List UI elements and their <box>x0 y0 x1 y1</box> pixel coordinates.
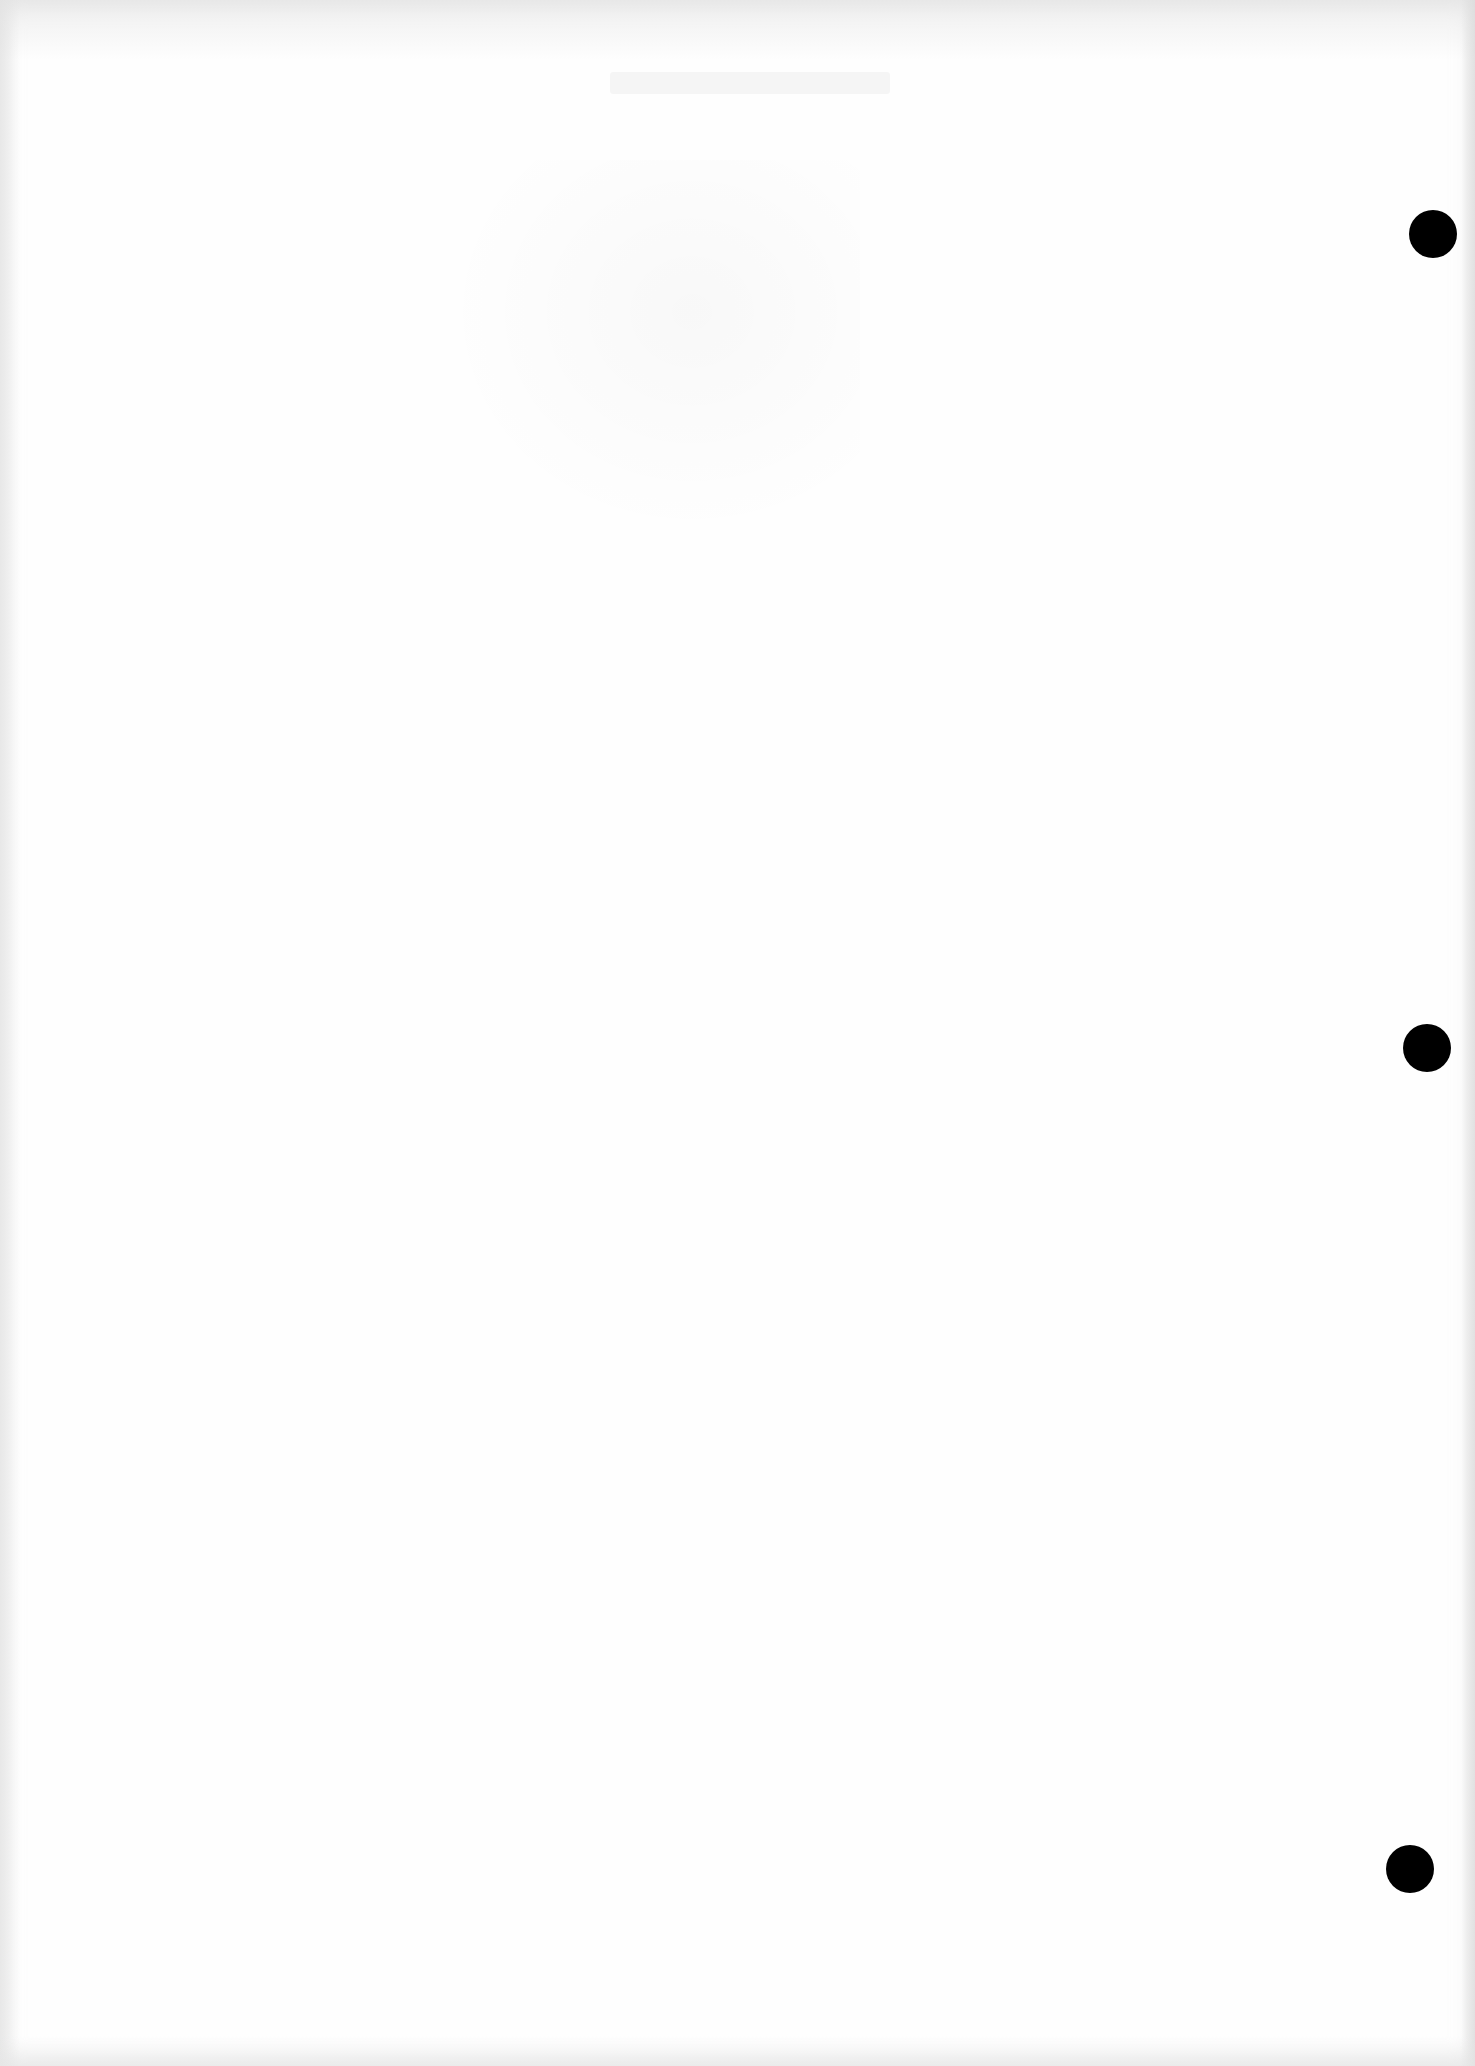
scan-edge-top <box>0 0 1475 60</box>
show-through-heading <box>610 72 890 94</box>
scan-edge-bottom <box>0 2036 1475 2066</box>
hole-punch-middle-icon <box>1403 1024 1451 1072</box>
hole-punch-bottom-icon <box>1386 1845 1434 1893</box>
scanned-page <box>0 0 1475 2066</box>
show-through-block <box>440 160 860 540</box>
hole-punch-top-icon <box>1409 210 1457 258</box>
scan-edge-left <box>0 0 20 2066</box>
scan-edge-right <box>1461 0 1475 2066</box>
